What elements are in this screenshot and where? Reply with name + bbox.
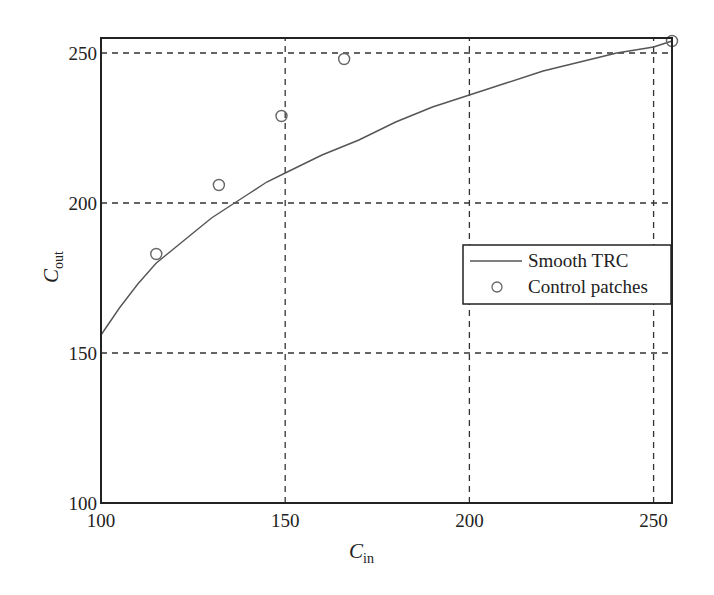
control-patches-markers (151, 36, 678, 260)
chart-canvas: 100150200250 100150200250 Cin Cout Smoot… (0, 0, 714, 595)
control-patch-marker (339, 54, 350, 65)
x-tick-label: 250 (639, 510, 668, 531)
legend-label-smooth-trc: Smooth TRC (528, 250, 628, 271)
y-tick-label: 100 (69, 493, 98, 514)
control-patch-marker (151, 249, 162, 260)
y-tick-label: 150 (69, 343, 98, 364)
x-tick-label: 150 (271, 510, 300, 531)
x-axis-ticks: 100150200250 (87, 510, 668, 531)
y-axis-label: Cout (39, 251, 66, 283)
x-tick-label: 200 (455, 510, 484, 531)
legend: Smooth TRC Control patches (463, 245, 671, 304)
y-axis-ticks: 100150200250 (69, 43, 98, 514)
legend-label-control-patches: Control patches (528, 276, 648, 297)
y-tick-label: 250 (69, 43, 98, 64)
y-tick-label: 200 (69, 193, 98, 214)
control-patch-marker (213, 180, 224, 191)
x-axis-label: Cin (349, 539, 374, 566)
